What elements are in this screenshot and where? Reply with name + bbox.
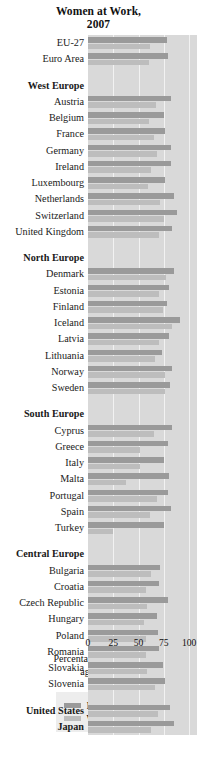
row-label: Greece [0,439,88,455]
bar-women [88,372,165,378]
gridline-50 [139,396,140,406]
row-label: Malta [0,471,88,487]
chart-row: Norway [0,364,197,380]
chart-row: Austria [0,94,197,110]
group-header-label: Central Europe [0,546,88,562]
row-label: Luxembourg [0,175,88,191]
row-label: Turkey [0,520,88,536]
row-plot-cell [88,396,197,406]
bar-women [88,496,157,502]
bar-pair [88,504,197,520]
bar-women [88,44,150,50]
bar-pair [88,579,197,595]
gridline-75 [164,693,165,703]
bar-women [88,685,155,691]
gridline-25 [113,406,114,422]
bar-pair [88,126,197,142]
row-label: Romania [0,644,88,660]
row-label: Norway [0,364,88,380]
row-plot-cell [88,406,197,422]
bar-women [88,620,144,626]
bar-women [88,512,150,518]
row-label: Japan [0,719,88,735]
bar-pair [88,676,197,692]
chart-row: Luxembourg [0,175,197,191]
row-label: Austria [0,94,88,110]
row-label: Denmark [0,266,88,282]
gridline-100 [189,396,190,406]
bar-men [88,597,168,603]
chart-row: United Kingdom [0,224,197,240]
bar-pair [88,611,197,627]
row-plot-cell [88,224,197,240]
bar-women [88,587,146,593]
bar-men [88,613,157,619]
x-tick-100: 100 [182,637,196,648]
gridline-25 [113,546,114,562]
row-plot-cell [88,250,197,266]
chart-row: South Europe [0,406,197,422]
gridline-50 [139,240,140,250]
row-label: Spain [0,504,88,520]
gridline-50 [139,406,140,422]
bar-men [88,193,174,199]
bar-pair [88,595,197,611]
bar-women [88,119,149,125]
row-label: Italy [0,455,88,471]
row-plot-cell [88,364,197,380]
bar-pair [88,703,197,719]
row-plot-cell [88,283,197,299]
row-plot-cell [88,299,197,315]
row-plot-cell [88,693,197,703]
bar-men [88,112,164,118]
bar-pair [88,191,197,207]
bar-men [88,522,164,528]
row-plot-cell [88,423,197,439]
chart-row: Latvia [0,331,197,347]
row-plot-cell [88,68,197,78]
bar-women [88,727,151,733]
row-label: Iceland [0,315,88,331]
row-label: Croatia [0,579,88,595]
bar-men [88,226,172,232]
chart-row: Japan [0,719,197,735]
bar-women [88,711,158,717]
chart-row: France [0,126,197,142]
chart-row: Switzerland [0,208,197,224]
gridline-100 [189,250,190,266]
bar-women [88,151,157,157]
bar-pair [88,719,197,735]
gridline-50 [139,536,140,546]
row-label: Lithuania [0,348,88,364]
row-spacer [0,240,197,250]
row-plot-cell [88,143,197,159]
chart-row: Spain [0,504,197,520]
bar-men [88,37,167,43]
x-tick-50: 50 [134,637,144,648]
gridline-25 [113,240,114,250]
bar-pair [88,423,197,439]
bar-men [88,662,163,668]
chart-row: Portugal [0,488,197,504]
gridline-75 [164,240,165,250]
row-spacer [0,536,197,546]
gridline-25 [113,68,114,78]
row-plot-cell [88,51,197,67]
chart-plot-area: EU-27Euro AreaWest EuropeAustriaBelgiumF… [0,35,197,635]
row-label: France [0,126,88,142]
chart-row: Germany [0,143,197,159]
gridline-100 [189,693,190,703]
chart-row: Slovenia [0,676,197,692]
bar-women [88,480,126,486]
bar-pair [88,110,197,126]
bar-women [88,135,154,141]
chart-row: Finland [0,299,197,315]
bar-women [88,232,159,238]
bar-pair [88,315,197,331]
row-label: Estonia [0,283,88,299]
bar-women [88,167,151,173]
bar-men [88,350,162,356]
bar-men [88,678,165,684]
chart-row: EU-27 [0,35,197,51]
gridline-25 [113,250,114,266]
